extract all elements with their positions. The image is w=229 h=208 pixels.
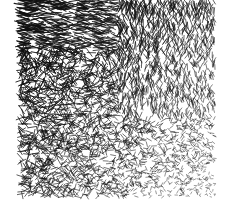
stroke-texture bbox=[0, 0, 229, 208]
